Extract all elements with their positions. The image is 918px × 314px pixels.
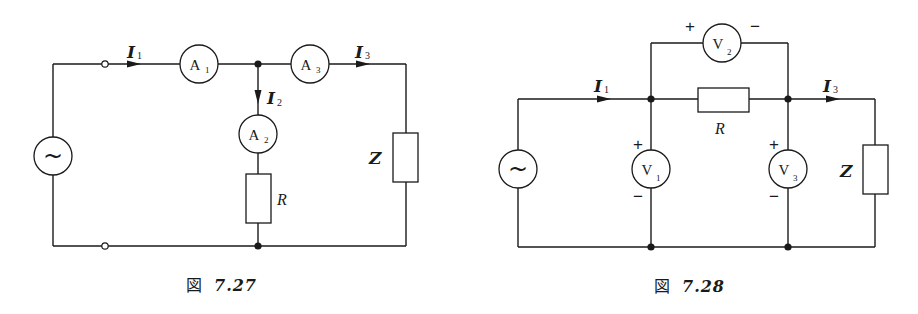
resistor-r: R bbox=[246, 174, 287, 223]
svg-text:I: I bbox=[593, 76, 603, 96]
ac-source: ~ bbox=[499, 150, 537, 188]
label-i1: I 1 bbox=[593, 76, 609, 96]
ammeter-a2: A 2 bbox=[239, 115, 277, 153]
svg-text:3: 3 bbox=[793, 173, 798, 183]
current-arrow-i1 bbox=[597, 96, 611, 103]
label-i3: I 3 bbox=[354, 42, 370, 62]
svg-text:V: V bbox=[779, 162, 790, 178]
junction-bottom-right bbox=[784, 243, 791, 250]
ammeter-a1: A 1 bbox=[180, 45, 218, 83]
figure-7-28: ~ I 1 I 3 R V 2 + − bbox=[499, 17, 888, 296]
polarity-minus: − bbox=[769, 187, 779, 206]
svg-text:2: 2 bbox=[264, 135, 269, 145]
junction-bottom-left bbox=[647, 243, 654, 250]
svg-text:R: R bbox=[276, 191, 287, 208]
svg-text:3: 3 bbox=[316, 65, 321, 75]
svg-text:Z: Z bbox=[368, 148, 382, 168]
svg-text:1: 1 bbox=[137, 50, 142, 61]
ammeter-a3: A 3 bbox=[291, 45, 329, 83]
svg-text:3: 3 bbox=[833, 84, 838, 95]
svg-text:A: A bbox=[190, 57, 201, 73]
terminal-bottom bbox=[102, 243, 108, 249]
wires bbox=[53, 64, 406, 246]
polarity-plus: + bbox=[769, 135, 779, 154]
svg-text:I: I bbox=[266, 88, 276, 108]
ac-wave-icon: ~ bbox=[508, 155, 528, 183]
junction-top-left bbox=[647, 95, 654, 102]
caption-7-28: 図 7.28 bbox=[654, 277, 725, 296]
terminal-top bbox=[102, 61, 108, 67]
svg-text:7.28: 7.28 bbox=[682, 277, 725, 296]
ac-wave-icon: ~ bbox=[43, 142, 63, 170]
svg-text:7.27: 7.27 bbox=[214, 276, 257, 295]
junction-top-right bbox=[784, 95, 791, 102]
polarity-minus: − bbox=[750, 17, 760, 36]
polarity-plus: + bbox=[685, 17, 695, 36]
svg-text:A: A bbox=[249, 127, 260, 143]
label-i1: I 1 bbox=[126, 42, 142, 62]
resistor-r: R bbox=[698, 88, 749, 137]
junction-top bbox=[254, 60, 261, 67]
caption-7-27: 図 7.27 bbox=[186, 276, 257, 295]
svg-text:1: 1 bbox=[656, 173, 661, 183]
impedance-z: Z bbox=[839, 145, 888, 194]
svg-text:I: I bbox=[354, 42, 364, 62]
svg-text:R: R bbox=[714, 120, 725, 137]
svg-text:V: V bbox=[713, 36, 724, 52]
svg-text:V: V bbox=[642, 162, 653, 178]
svg-text:3: 3 bbox=[365, 50, 370, 61]
ac-source: ~ bbox=[34, 137, 72, 175]
label-i2: I 2 bbox=[266, 88, 282, 108]
figure-7-27: ~ I 1 I 3 I 2 A 1 bbox=[34, 42, 418, 295]
polarity-plus: + bbox=[633, 135, 643, 154]
current-arrow-i3 bbox=[826, 96, 840, 103]
polarity-minus: − bbox=[633, 187, 643, 206]
voltmeter-v2: V 2 + − bbox=[685, 17, 760, 62]
circuit-diagrams: ~ I 1 I 3 I 2 A 1 bbox=[0, 0, 918, 314]
svg-text:A: A bbox=[301, 57, 312, 73]
svg-text:図: 図 bbox=[654, 277, 670, 296]
label-i3: I 3 bbox=[822, 76, 838, 96]
svg-text:1: 1 bbox=[604, 84, 609, 95]
svg-text:2: 2 bbox=[727, 47, 732, 57]
svg-text:2: 2 bbox=[277, 97, 282, 108]
svg-text:I: I bbox=[822, 76, 832, 96]
svg-text:1: 1 bbox=[205, 65, 210, 75]
junction-bottom bbox=[254, 242, 261, 249]
svg-text:Z: Z bbox=[839, 161, 853, 181]
impedance-z: Z bbox=[368, 133, 418, 182]
wires bbox=[518, 43, 875, 247]
svg-text:I: I bbox=[126, 42, 136, 62]
svg-text:図: 図 bbox=[186, 276, 202, 295]
current-arrow-i2 bbox=[255, 90, 262, 104]
